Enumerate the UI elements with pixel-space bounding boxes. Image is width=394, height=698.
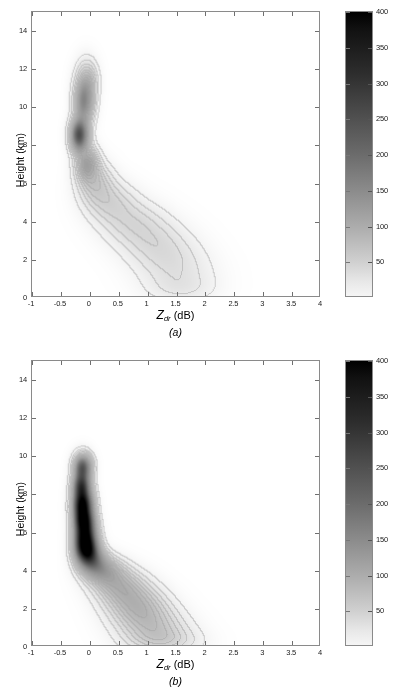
x-tick-top-b bbox=[292, 361, 293, 365]
y-tick-right-b bbox=[315, 571, 319, 572]
colorbar-tick-label-a: 100 bbox=[376, 221, 388, 230]
colorbar-tick-left-b bbox=[346, 433, 350, 434]
x-tick-label-b: -0.5 bbox=[54, 648, 66, 657]
y-tick-right-b bbox=[315, 418, 319, 419]
y-tick-right-a bbox=[315, 184, 319, 185]
x-tick-top-b bbox=[32, 361, 33, 365]
x-tick-top-a bbox=[32, 12, 33, 16]
y-tick-right-a bbox=[315, 69, 319, 70]
x-tick-top-b bbox=[61, 361, 62, 365]
colorbar-tick-left-b bbox=[346, 576, 350, 577]
x-tick-a bbox=[292, 292, 293, 296]
y-tick-label-b: 4 bbox=[5, 565, 27, 574]
x-tick-label-a: 0.5 bbox=[113, 299, 123, 308]
colorbar-tick-b bbox=[368, 504, 372, 505]
x-tick-label-b: 0 bbox=[87, 648, 91, 657]
x-tick-a bbox=[177, 292, 178, 296]
y-tick-right-a bbox=[315, 31, 319, 32]
colorbar-tick-label-a: 200 bbox=[376, 150, 388, 159]
x-axis-subscript-a: dr bbox=[164, 314, 171, 323]
colorbar-tick-label-b: 100 bbox=[376, 570, 388, 579]
y-tick-label-a: 14 bbox=[5, 26, 27, 35]
x-tick-label-b: 0.5 bbox=[113, 648, 123, 657]
x-tick-a bbox=[32, 292, 33, 296]
y-tick-label-a: 6 bbox=[5, 178, 27, 187]
x-tick-label-b: 2.5 bbox=[228, 648, 238, 657]
y-tick-right-a bbox=[315, 145, 319, 146]
y-tick-right-b bbox=[315, 533, 319, 534]
y-tick-label-b: 0 bbox=[5, 642, 27, 651]
x-tick-b bbox=[263, 641, 264, 645]
colorbar-tick-b bbox=[368, 433, 372, 434]
colorbar-tick-b bbox=[368, 397, 372, 398]
x-tick-label-a: 1.5 bbox=[171, 299, 181, 308]
x-tick-top-b bbox=[148, 361, 149, 365]
colorbar-b bbox=[345, 360, 373, 646]
panel-caption-b: (b) bbox=[31, 675, 320, 687]
x-tick-top-b bbox=[263, 361, 264, 365]
y-tick-right-b bbox=[315, 609, 319, 610]
colorbar-tick-a bbox=[368, 84, 372, 85]
x-tick-label-a: 2.5 bbox=[228, 299, 238, 308]
y-tick-a bbox=[32, 69, 36, 70]
x-tick-b bbox=[205, 641, 206, 645]
y-axis-label-a: Height (km) bbox=[14, 105, 26, 215]
x-tick-label-a: 3 bbox=[260, 299, 264, 308]
y-tick-label-a: 2 bbox=[5, 254, 27, 263]
x-tick-top-a bbox=[177, 12, 178, 16]
density-plot-b bbox=[32, 361, 319, 645]
y-tick-b bbox=[32, 494, 36, 495]
x-tick-b bbox=[177, 641, 178, 645]
y-tick-b bbox=[32, 380, 36, 381]
colorbar-tick-a bbox=[368, 191, 372, 192]
colorbar-tick-label-a: 300 bbox=[376, 78, 388, 87]
colorbar-tick-label-b: 350 bbox=[376, 391, 388, 400]
x-tick-label-b: -1 bbox=[28, 648, 34, 657]
colorbar-tick-label-b: 250 bbox=[376, 463, 388, 472]
colorbar-tick-a bbox=[368, 227, 372, 228]
colorbar-gradient-a bbox=[346, 12, 372, 296]
colorbar-tick-left-a bbox=[346, 48, 350, 49]
x-tick-b bbox=[32, 641, 33, 645]
x-tick-label-a: 4 bbox=[318, 299, 322, 308]
colorbar-tick-b bbox=[368, 540, 372, 541]
colorbar-tick-label-a: 250 bbox=[376, 114, 388, 123]
x-tick-a bbox=[263, 292, 264, 296]
panel-a: Height (km) Zdr (dB) (a) -1-0.500.511.52… bbox=[0, 0, 394, 349]
colorbar-gradient-b bbox=[346, 361, 372, 645]
colorbar-a bbox=[345, 11, 373, 297]
colorbar-tick-left-a bbox=[346, 155, 350, 156]
y-axis-label-b: Height (km) bbox=[14, 454, 26, 564]
colorbar-tick-a bbox=[368, 12, 372, 13]
x-tick-top-b bbox=[234, 361, 235, 365]
x-tick-top-b bbox=[177, 361, 178, 365]
y-tick-b bbox=[32, 533, 36, 534]
y-tick-label-b: 6 bbox=[5, 527, 27, 536]
x-tick-label-a: 3.5 bbox=[286, 299, 296, 308]
x-tick-label-b: 1 bbox=[145, 648, 149, 657]
x-tick-b bbox=[119, 641, 120, 645]
x-tick-a bbox=[234, 292, 235, 296]
x-tick-label-b: 3 bbox=[260, 648, 264, 657]
x-tick-top-a bbox=[61, 12, 62, 16]
x-tick-label-a: -1 bbox=[28, 299, 34, 308]
y-tick-a bbox=[32, 184, 36, 185]
colorbar-tick-label-b: 150 bbox=[376, 534, 388, 543]
x-tick-b bbox=[292, 641, 293, 645]
colorbar-tick-label-a: 50 bbox=[376, 257, 384, 266]
plot-area-a bbox=[31, 11, 320, 297]
x-tick-a bbox=[90, 292, 91, 296]
x-tick-b bbox=[90, 641, 91, 645]
x-tick-top-a bbox=[90, 12, 91, 16]
x-tick-top-a bbox=[263, 12, 264, 16]
y-tick-right-a bbox=[315, 260, 319, 261]
x-tick-a bbox=[148, 292, 149, 296]
y-tick-a bbox=[32, 145, 36, 146]
x-tick-label-b: 4 bbox=[318, 648, 322, 657]
x-tick-top-b bbox=[119, 361, 120, 365]
colorbar-tick-label-a: 350 bbox=[376, 42, 388, 51]
y-tick-right-b bbox=[315, 494, 319, 495]
y-tick-label-a: 12 bbox=[5, 64, 27, 73]
colorbar-tick-left-a bbox=[346, 191, 350, 192]
colorbar-tick-a bbox=[368, 119, 372, 120]
